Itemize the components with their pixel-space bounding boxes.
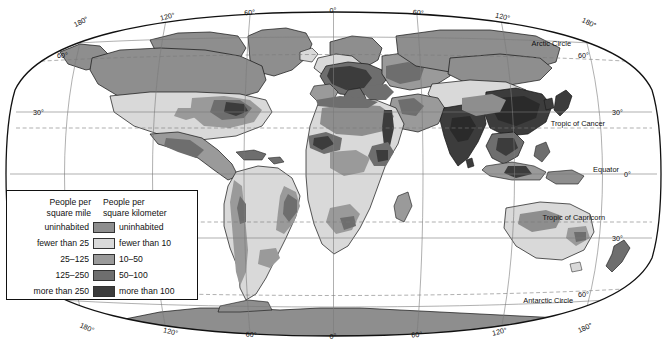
map-figure: 180° 120° 60° 0° 60° 120° 180° 180° 120°… <box>0 0 667 348</box>
legend-heading-left: People per square mile <box>13 197 91 218</box>
legend-heading-left-line1: People per <box>13 197 91 208</box>
label-antarctic-circle: Antarctic Circle <box>523 296 573 305</box>
legend-row-medium: 25–125 10–50 <box>7 252 199 267</box>
legend-heading-left-line2: square mile <box>13 208 91 219</box>
tasmania <box>570 262 582 272</box>
legend-row-low: fewer than 25 fewer than 10 <box>7 236 199 251</box>
legend-swatch-very-high <box>93 286 115 297</box>
top-label-180w: 180° <box>72 14 89 29</box>
legend-swatch-high <box>93 270 115 281</box>
legend-left-uninhabited: uninhabited <box>11 220 89 235</box>
left-label-30n: 30° <box>33 108 44 117</box>
bottom-label-180e: 180° <box>576 321 593 335</box>
legend-right-uninhabited: uninhabited <box>119 220 197 235</box>
legend-row-uninhabited: uninhabited uninhabited <box>7 220 199 235</box>
legend-right-high: 50–100 <box>119 268 197 283</box>
bottom-label-120e: 120° <box>491 325 508 337</box>
korea <box>544 98 554 110</box>
legend-right-medium: 10–50 <box>119 252 197 267</box>
label-equator: Equator <box>593 165 619 174</box>
legend-row-high: 125–250 50–100 <box>7 268 199 283</box>
bottom-label-60e: 60° <box>411 330 423 340</box>
bottom-label-60w: 60° <box>245 330 257 340</box>
bottom-label-120w: 120° <box>162 326 179 338</box>
top-label-0: 0° <box>330 6 337 15</box>
label-tropic-of-cancer: Tropic of Cancer <box>551 119 606 128</box>
legend-right-low: fewer than 10 <box>119 236 197 251</box>
right-label-60s: 60° <box>578 290 589 299</box>
legend-left-high: 125–250 <box>11 268 89 283</box>
legend-swatch-uninhabited <box>93 222 115 233</box>
top-label-60e: 60° <box>412 7 424 17</box>
legend-heading-right-line1: People per <box>103 197 195 208</box>
legend-swatch-low <box>93 238 115 249</box>
legend-left-medium: 25–125 <box>11 252 89 267</box>
legend-right-very-high: more than 100 <box>119 284 197 299</box>
bottom-label-0: 0° <box>330 332 337 341</box>
right-label-60n: 60° <box>578 51 589 60</box>
legend-heading-right: People per square kilometer <box>103 197 195 218</box>
top-label-180e: 180° <box>580 15 597 30</box>
right-label-30s: 30° <box>612 234 623 243</box>
great-lakes-density <box>376 150 388 162</box>
top-label-60w: 60° <box>244 7 256 17</box>
right-label-30n: 30° <box>612 108 623 117</box>
legend-row-very-high: more than 250 more than 100 <box>7 284 199 299</box>
right-label-0: 0° <box>624 170 631 179</box>
left-label-60n: 60° <box>57 51 68 60</box>
label-tropic-of-capricorn: Tropic of Capricorn <box>542 213 605 222</box>
legend: People per square mile People per square… <box>6 190 198 300</box>
label-arctic-circle: Arctic Circle <box>532 39 571 48</box>
legend-left-low: fewer than 25 <box>11 236 89 251</box>
legend-swatch-medium <box>93 254 115 265</box>
legend-heading-right-line2: square kilometer <box>103 208 195 219</box>
bottom-label-180w: 180° <box>78 321 95 335</box>
legend-left-very-high: more than 250 <box>11 284 89 299</box>
